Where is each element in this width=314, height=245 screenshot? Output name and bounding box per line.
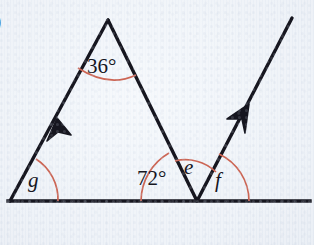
part-label: ) (0, 10, 1, 32)
right-angle-label: f (215, 170, 221, 191)
parallel-arrow-marks (47, 104, 249, 141)
arrowhead-icon-right-ray (227, 104, 249, 133)
left-base-angle-label: g (28, 170, 39, 191)
interior-right-angle-label: 72° (137, 168, 166, 189)
arc-right-f (219, 154, 249, 201)
geometry-diagram (0, 0, 314, 245)
apex-angle-label: 36° (87, 56, 116, 77)
arc-left-base-g (36, 159, 58, 201)
middle-angle-label: e (184, 157, 193, 178)
figure-canvas: ) 36° g 72° e f (0, 0, 314, 245)
triangle-left-side (10, 20, 108, 201)
